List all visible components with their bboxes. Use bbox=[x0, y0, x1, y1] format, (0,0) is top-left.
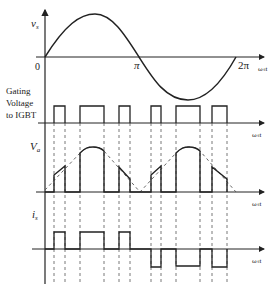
va-label: Va bbox=[30, 140, 41, 154]
is-x-axis-label: ωₛt bbox=[252, 257, 262, 265]
vs-label: vs bbox=[31, 17, 39, 31]
gating-x-axis-label: ωₛt bbox=[252, 131, 262, 139]
is-label: is bbox=[32, 208, 38, 222]
va-rectified-sine-envelope bbox=[45, 147, 236, 192]
pwm-waveform-diagram: vs 0 π 2π ωₛt Gating Voltage to IGBT ωₛt… bbox=[0, 0, 275, 289]
va-pwm-waveform bbox=[45, 147, 227, 192]
two-pi-tick-label: 2π bbox=[238, 59, 250, 71]
gating-label-line3: to IGBT bbox=[6, 110, 37, 120]
va-x-axis-label: ωₛt bbox=[252, 200, 262, 208]
top-x-axis-label: ωₛt bbox=[258, 65, 268, 73]
gating-label-line2: Voltage bbox=[6, 98, 33, 108]
origin-label: 0 bbox=[35, 61, 40, 72]
gating-pulses bbox=[54, 106, 227, 123]
dashed-guides bbox=[54, 123, 227, 285]
gating-label-line1: Gating bbox=[6, 86, 31, 96]
pi-tick-label: π bbox=[134, 59, 140, 71]
